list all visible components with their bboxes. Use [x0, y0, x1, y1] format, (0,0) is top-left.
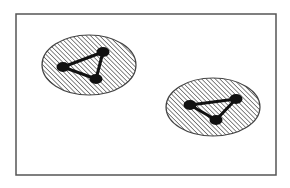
graph-node: [90, 74, 103, 84]
right-cluster: [166, 78, 260, 136]
hatched-ellipse: [166, 78, 260, 136]
graph-node: [230, 94, 243, 104]
graph-node: [57, 62, 70, 72]
graph-node: [210, 115, 223, 125]
left-cluster: [42, 35, 136, 95]
diagram-canvas: [0, 0, 290, 188]
hatched-ellipse: [42, 35, 136, 95]
graph-node: [97, 47, 110, 57]
graph-node: [184, 100, 197, 110]
